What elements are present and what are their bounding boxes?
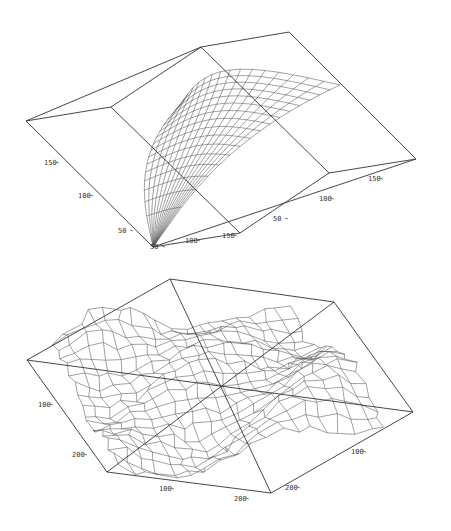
axis-tick-label: 150 — [44, 159, 57, 167]
mesh-line — [153, 85, 340, 247]
axis-tick-label: 100 — [319, 195, 332, 203]
mesh-line — [153, 82, 199, 247]
axis-tick-label: 50 — [150, 243, 158, 251]
axis-tick-label: 200 — [285, 484, 298, 492]
top-surface-plot: 501001505010015050100150 — [26, 32, 416, 251]
axis-tick-label: 100 — [185, 237, 198, 245]
top-plot-mesh — [144, 69, 340, 247]
axis-tick-label: 50 — [118, 227, 126, 235]
mesh-line — [114, 414, 377, 476]
axis-tick-label: 100 — [78, 192, 91, 200]
axis-tick-label: 150 — [222, 232, 235, 240]
box-edge — [26, 121, 153, 247]
mesh-line — [153, 72, 221, 247]
tick-mark — [285, 218, 288, 219]
mesh-line — [60, 331, 303, 359]
bottom-plot-axis-ticks: 100200100200100200 — [38, 401, 366, 503]
box-edge — [289, 32, 416, 159]
mesh-line — [103, 375, 367, 452]
mesh-line — [208, 323, 300, 432]
mesh-line — [102, 307, 177, 477]
axis-tick-label: 100 — [38, 401, 51, 409]
axis-tick-label: 100 — [351, 448, 364, 456]
box-edge — [170, 279, 271, 493]
axis-tick-label: 50 — [273, 215, 281, 223]
top-plot-bounding-box — [26, 32, 416, 247]
box-edge — [153, 159, 416, 247]
mesh-line — [167, 89, 310, 120]
mesh-line — [119, 310, 192, 475]
mesh-line — [236, 318, 327, 433]
axis-tick-label: 150 — [368, 175, 381, 183]
mesh-line — [175, 76, 330, 110]
mesh-line — [157, 111, 281, 138]
chart-canvas: 501001505010015050100150 100200100200100… — [0, 0, 451, 531]
axis-tick-label: 200 — [72, 451, 85, 459]
mesh-line — [149, 135, 251, 157]
mesh-line — [83, 347, 332, 408]
axis-tick-label: 100 — [159, 485, 172, 493]
bottom-plot-mesh — [52, 306, 383, 478]
mesh-line — [200, 325, 284, 428]
axis-tick-label: 200 — [234, 495, 247, 503]
tick-mark — [130, 230, 133, 231]
bottom-surface-plot: 100200100200100200 — [27, 279, 413, 503]
tick-mark — [162, 246, 165, 247]
box-edge — [26, 32, 289, 121]
mesh-line — [52, 345, 119, 464]
mesh-line — [108, 387, 369, 460]
